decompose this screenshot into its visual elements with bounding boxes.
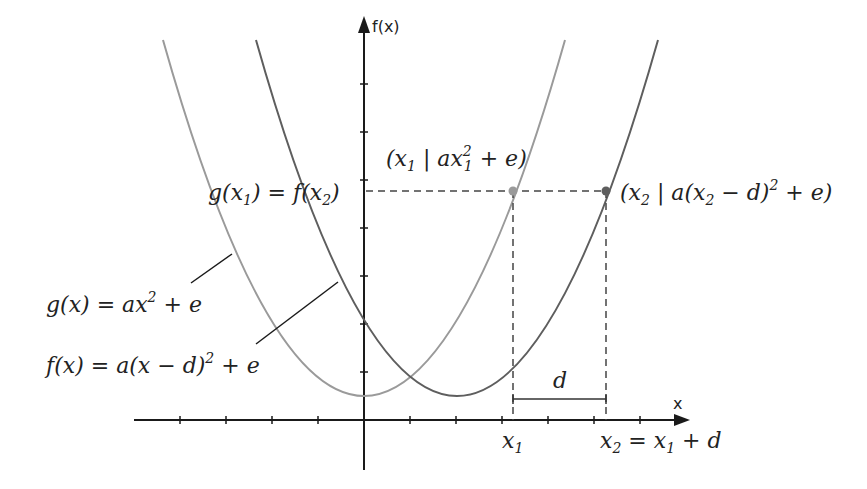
- guide-lines: [366, 191, 606, 420]
- point1-label: (x1 | ax21 + e): [386, 143, 527, 174]
- x1-axis-label: x1: [502, 428, 523, 456]
- parabola-shift-diagram: x f(x) d: [0, 0, 867, 489]
- x-axis-label: x: [673, 394, 682, 413]
- g-formula-label: g(x) = ax2 + e: [46, 289, 202, 317]
- g-label-pointer: [191, 254, 232, 283]
- y-axis-label: f(x): [372, 17, 400, 36]
- f-label-pointer: [256, 282, 338, 344]
- curve-f: [256, 40, 658, 396]
- f-formula-label: f(x) = a(x − d)2 + e: [44, 350, 260, 378]
- y-axis: f(x): [358, 16, 400, 470]
- x-axis-arrow-icon: [674, 414, 690, 426]
- d-bracket: [513, 394, 606, 404]
- point-x2: [602, 187, 611, 196]
- point2-label: (x2 | a(x2 − d)2 + e): [620, 177, 832, 208]
- d-label: d: [553, 368, 567, 393]
- x2-axis-label: x2 = x1 + d: [600, 428, 722, 456]
- equality-label: g(x1) = f(x2): [208, 180, 340, 208]
- point-x1: [509, 187, 518, 196]
- y-axis-arrow-icon: [358, 16, 370, 33]
